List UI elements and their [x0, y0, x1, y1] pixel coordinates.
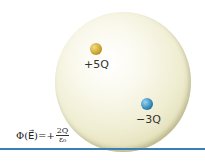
negative-charge-icon — [141, 98, 153, 110]
divider-rule — [0, 148, 205, 150]
flux-lhs: Φ(E⃗)=+ — [16, 130, 55, 141]
flux-denominator: ε₀ — [59, 136, 66, 144]
gaussian-sphere — [55, 12, 191, 152]
flux-equation: Φ(E⃗)=+ 2Q ε₀ — [16, 127, 69, 144]
negative-charge-label: −3Q — [136, 113, 161, 126]
positive-charge-label: +5Q — [84, 58, 109, 71]
positive-charge-icon — [90, 43, 102, 55]
flux-fraction: 2Q ε₀ — [56, 127, 70, 144]
